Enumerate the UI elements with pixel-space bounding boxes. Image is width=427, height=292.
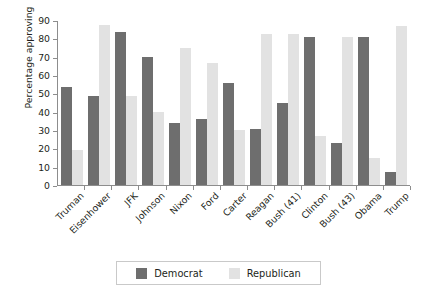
bar-democrat-trump[interactable] (385, 172, 396, 185)
bar-republican-trump[interactable] (396, 26, 407, 185)
bar-democrat-jfk[interactable] (115, 32, 126, 185)
bar-group (329, 21, 356, 185)
bar-republican-nixon[interactable] (180, 48, 191, 185)
bar-group (220, 21, 247, 185)
bar-group (85, 21, 112, 185)
bar-democrat-clinton[interactable] (304, 37, 315, 185)
y-tick-label-30: 30 (38, 126, 50, 135)
plot-area: 0102030405060708090 (57, 21, 410, 186)
bar-republican-bush-43[interactable] (342, 37, 353, 185)
y-tick-label-50: 50 (38, 90, 50, 99)
x-axis-labels: TrumanEisenhowerJFKJohnsonNixonFordCarte… (57, 190, 410, 250)
bar-group (356, 21, 383, 185)
x-axis-label-johnson: Johnson (133, 190, 167, 224)
bar-republican-truman[interactable] (72, 150, 83, 185)
bar-group (193, 21, 220, 185)
x-axis-label-nixon: Nixon (168, 190, 194, 216)
y-axis-title: Percentage approving (23, 0, 34, 138)
y-tick-50 (53, 94, 57, 95)
legend-swatch-democrat (136, 268, 147, 279)
bar-democrat-johnson[interactable] (142, 57, 153, 185)
y-tick-label-90: 90 (38, 16, 50, 25)
bar-republican-reagan[interactable] (261, 34, 272, 185)
bar-republican-bush-41[interactable] (288, 34, 299, 185)
bar-democrat-reagan[interactable] (250, 129, 261, 185)
y-tick-30 (53, 131, 57, 132)
bar-republican-eisenhower[interactable] (99, 25, 110, 185)
bar-group (275, 21, 302, 185)
bar-republican-clinton[interactable] (315, 136, 326, 185)
y-tick-70 (53, 58, 57, 59)
bar-democrat-nixon[interactable] (169, 123, 180, 185)
x-tick (410, 186, 411, 190)
bar-group (302, 21, 329, 185)
y-tick-label-20: 20 (38, 145, 50, 154)
bar-democrat-bush-41[interactable] (277, 103, 288, 185)
bar-group (112, 21, 139, 185)
x-axis-label-trump: Trump (383, 190, 411, 218)
y-tick-label-10: 10 (38, 163, 50, 172)
y-tick-label-80: 80 (38, 35, 50, 44)
legend-item-democrat: Democrat (136, 268, 202, 279)
y-tick-label-0: 0 (44, 181, 50, 190)
legend-label-democrat: Democrat (154, 268, 202, 279)
bar-democrat-eisenhower[interactable] (88, 96, 99, 185)
y-tick-40 (53, 113, 57, 114)
legend: Democrat Republican (116, 261, 321, 285)
legend-item-republican: Republican (229, 268, 301, 279)
y-tick-label-60: 60 (38, 71, 50, 80)
bar-democrat-bush-43[interactable] (331, 143, 342, 185)
y-tick-10 (53, 168, 57, 169)
bar-republican-obama[interactable] (369, 158, 380, 185)
y-tick-80 (53, 39, 57, 40)
bar-democrat-obama[interactable] (358, 37, 369, 185)
x-axis-label-obama: Obama (352, 190, 384, 222)
y-tick-90 (53, 21, 57, 22)
bar-democrat-ford[interactable] (196, 119, 207, 185)
bar-group (139, 21, 166, 185)
x-axis-label-ford: Ford (199, 190, 221, 212)
bar-group (248, 21, 275, 185)
y-tick-label-40: 40 (38, 108, 50, 117)
legend-label-republican: Republican (247, 268, 301, 279)
bars-container (58, 21, 410, 185)
bar-democrat-carter[interactable] (223, 83, 234, 185)
bar-democrat-truman[interactable] (61, 87, 72, 185)
bar-group (58, 21, 85, 185)
bar-republican-jfk[interactable] (126, 96, 137, 185)
bar-group (166, 21, 193, 185)
bar-republican-carter[interactable] (234, 130, 245, 185)
y-tick-label-70: 70 (38, 53, 50, 62)
legend-swatch-republican (229, 268, 240, 279)
bar-republican-ford[interactable] (207, 63, 218, 185)
x-axis-label-jfk: JFK (122, 190, 140, 208)
y-tick-20 (53, 149, 57, 150)
bar-republican-johnson[interactable] (153, 112, 164, 185)
bar-chart: Percentage approving 0102030405060708090… (0, 0, 427, 292)
bar-group (383, 21, 410, 185)
y-tick-60 (53, 76, 57, 77)
